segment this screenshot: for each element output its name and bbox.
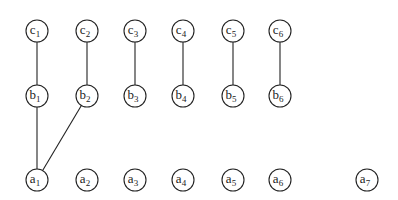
node-b3: b3	[124, 85, 146, 107]
node-a4: a4	[172, 169, 194, 191]
node-b4: b4	[172, 85, 194, 107]
node-c2: c2	[76, 20, 98, 42]
node-a6: a6	[269, 169, 291, 191]
edge-b2-a1	[43, 105, 82, 170]
node-b5: b5	[222, 85, 244, 107]
node-c4: c4	[172, 20, 194, 42]
node-b6: b6	[269, 85, 291, 107]
node-b1: b1	[26, 85, 48, 107]
node-c3: c3	[124, 20, 146, 42]
edges-layer	[37, 42, 280, 171]
node-a1: a1	[26, 169, 48, 191]
node-c6: c6	[269, 20, 291, 42]
node-a3: a3	[124, 169, 146, 191]
node-c5: c5	[222, 20, 244, 42]
nodes-layer: c1c2c3c4c5c6b1b2b3b4b5b6a1a2a3a4a5a6a7	[26, 20, 378, 191]
node-a7: a7	[356, 169, 378, 191]
node-a2: a2	[76, 169, 98, 191]
node-c1: c1	[26, 20, 48, 42]
graph-diagram: c1c2c3c4c5c6b1b2b3b4b5b6a1a2a3a4a5a6a7	[0, 0, 398, 200]
node-a5: a5	[222, 169, 244, 191]
node-b2: b2	[76, 85, 98, 107]
